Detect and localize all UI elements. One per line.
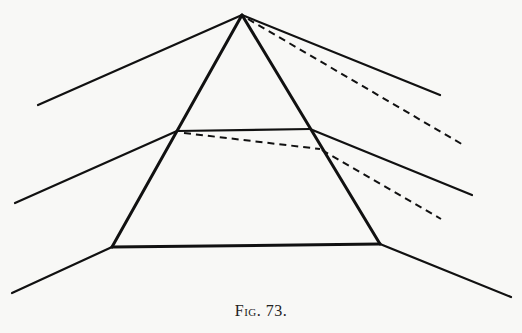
lower-incident-ray bbox=[12, 247, 112, 293]
upper-rays bbox=[38, 15, 465, 146]
prism-divider bbox=[177, 129, 310, 131]
lower-emergent-ray bbox=[380, 244, 511, 297]
middle-incident-ray bbox=[15, 131, 177, 203]
upper-incident-ray bbox=[38, 15, 242, 105]
prism-outline bbox=[112, 15, 380, 247]
prism-diagram bbox=[0, 0, 522, 333]
prism-base bbox=[112, 244, 380, 247]
figure-caption: Fig. 73. bbox=[0, 302, 522, 320]
upper-emergent-ray bbox=[242, 15, 440, 95]
middle-dashed-ray-outside bbox=[322, 150, 441, 219]
upper-dashed-ray bbox=[248, 19, 465, 146]
lower-rays bbox=[12, 244, 511, 297]
middle-rays bbox=[15, 129, 472, 219]
middle-dashed-ray-inside bbox=[184, 133, 320, 149]
middle-emergent-ray bbox=[310, 129, 472, 195]
